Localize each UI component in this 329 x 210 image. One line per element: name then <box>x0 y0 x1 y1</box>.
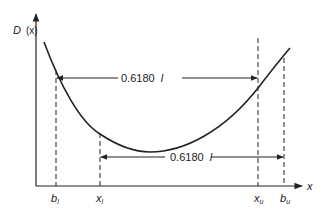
lower-interval-value: 0.6180 <box>170 151 204 163</box>
golden-section-diagram: D (x) x 0.6180 l 0.6180 l bl xl xu bu <box>0 0 329 210</box>
upper-interval-label: 0.6180 l <box>121 72 164 84</box>
upper-interval-var: l <box>161 72 164 84</box>
point-label-b-u: bu <box>280 192 290 205</box>
function-curve <box>44 42 290 152</box>
point-label-x-l: xl <box>95 192 104 205</box>
lower-interval-label: 0.6180 l <box>170 151 213 163</box>
x-axis-label: x <box>306 180 313 192</box>
y-axis-label: D (x) <box>13 24 38 36</box>
y-axis-label-arg: (x) <box>26 25 38 36</box>
point-label-x-u: xu <box>253 192 264 205</box>
point-label-b-l: bl <box>51 192 59 205</box>
y-axis-label-main: D <box>13 24 21 36</box>
upper-interval-value: 0.6180 <box>121 72 155 84</box>
